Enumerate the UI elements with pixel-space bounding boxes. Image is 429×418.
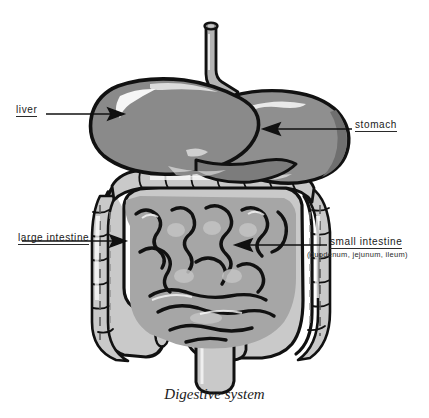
label-small-intestine-text: small intestine — [330, 236, 402, 249]
sublabel-small-intestine: (duodenum, jejunum, ileum) — [307, 250, 408, 259]
label-small-intestine: small intestine — [330, 236, 402, 248]
label-large-intestine-text: large intestine — [18, 232, 89, 245]
label-large-intestine: large intestine — [18, 232, 89, 244]
figure-caption: Digestive system — [0, 386, 429, 403]
label-stomach-text: stomach — [355, 119, 397, 132]
label-liver: liver — [16, 104, 37, 116]
label-stomach: stomach — [355, 119, 397, 131]
small-intestine — [126, 196, 297, 349]
label-liver-text: liver — [16, 104, 37, 117]
digestive-system-illustration — [0, 0, 429, 418]
